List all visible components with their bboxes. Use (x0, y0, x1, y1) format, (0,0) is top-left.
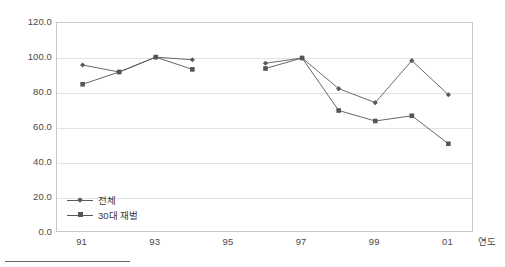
y-axis-labels: 0.020.040.060.080.0100.0120.0 (0, 0, 52, 267)
x-tick-label: 93 (149, 236, 160, 248)
data-point-marker (410, 113, 415, 118)
y-tick-label: 20.0 (0, 192, 52, 202)
x-tick-label: 97 (296, 236, 307, 248)
data-point-marker (190, 57, 195, 62)
legend-label-series-1: 30대 재벌 (98, 210, 138, 221)
y-tick-label: 40.0 (0, 157, 52, 167)
data-point-marker (80, 62, 85, 67)
data-point-marker (336, 108, 341, 113)
x-axis-title: 연도 (478, 234, 496, 248)
plot-area: 전체 30대 재벌 (56, 22, 473, 232)
data-point-marker (263, 61, 268, 66)
chart-legend: 전체 30대 재벌 (63, 190, 142, 225)
x-tick-label: 91 (76, 236, 87, 248)
x-tick-label: 01 (442, 236, 453, 248)
x-tick-label: 95 (223, 236, 234, 248)
data-point-marker (80, 82, 85, 87)
y-tick-label: 80.0 (0, 87, 52, 97)
data-point-marker (300, 56, 305, 61)
data-point-marker (153, 55, 158, 60)
data-point-marker (373, 119, 378, 124)
series-1 (80, 55, 450, 146)
legend-marker-diamond-icon (67, 195, 93, 205)
legend-marker-square-icon (67, 210, 93, 220)
data-point-marker (263, 66, 268, 71)
legend-label-series-0: 전체 (98, 195, 116, 206)
legend-item-series-0[interactable]: 전체 (67, 193, 138, 207)
data-point-marker (190, 67, 195, 72)
data-point-marker (446, 141, 451, 146)
chart-figure: 0.020.040.060.080.0100.0120.0 전체 30대 재벌 … (0, 0, 505, 267)
series-line (266, 58, 449, 144)
footer-rule (5, 261, 130, 262)
x-axis-labels: 919395979901 (0, 236, 505, 252)
legend-item-series-1[interactable]: 30대 재벌 (67, 208, 138, 222)
y-tick-label: 120.0 (0, 17, 52, 27)
series-line (83, 57, 193, 84)
y-tick-label: 60.0 (0, 122, 52, 132)
series-0 (80, 55, 451, 106)
y-tick-label: 100.0 (0, 52, 52, 62)
series-line (266, 58, 449, 103)
data-point-marker (117, 70, 122, 75)
x-tick-label: 99 (369, 236, 380, 248)
